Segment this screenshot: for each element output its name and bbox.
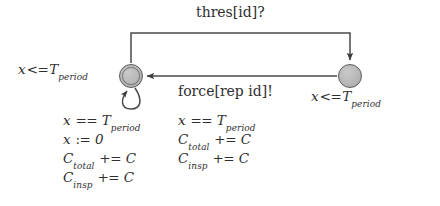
back-edge-line-1-lhs: C [178,131,188,147]
left-invariant-clock: T [49,61,58,77]
self-loop-line-1-op: := [71,131,95,147]
self-loop-line-1-lhs: x [63,131,71,147]
right-location-invariant: x<=Tperiod [311,90,381,104]
left-invariant-sub: period [58,72,88,82]
back-edge-line-1-lhs-sub: total [188,142,209,152]
back-edge-line-0: x == Tperiod [178,111,256,130]
self-loop-line-2: Ctotal += C [63,149,141,168]
self-loop-line-3-rhs: C [124,169,134,185]
back-edge-line-2-op: += [208,150,239,166]
edge-top-sync-label: thres[id]? [196,4,265,20]
edge-left-self-loop-path [122,88,139,109]
right-invariant-var: x [311,88,319,104]
left-location[interactable] [119,64,143,88]
edge-back-sync-label: force[rep id]! [178,83,273,99]
automaton-diagram: thres[id]? x<=Tperiod x<=Tperiod force[r… [0,0,440,206]
self-loop-line-2-rhs: C [126,150,136,166]
back-edge-line-0-op: == [186,112,217,128]
back-edge-line-0-lhs: x [178,112,186,128]
self-loop-line-3-op: += [93,169,124,185]
self-loop-line-3-lhs-sub: insp [73,180,92,190]
self-loop-line-2-lhs-sub: total [73,161,94,171]
self-loop-line-3-lhs: C [63,169,73,185]
self-loop-line-0-op: == [71,112,102,128]
edge-left-to-right-path [131,33,350,63]
right-invariant-clock: T [342,88,351,104]
self-loop-line-2-lhs: C [63,150,73,166]
self-loop-line-0-rhs: T [102,112,111,128]
back-edge-line-1-op: += [210,131,241,147]
back-edge-line-2-rhs: C [239,150,249,166]
back-edge-line-2-lhs: C [178,150,188,166]
self-loop-line-0: x == Tperiod [63,111,141,130]
back-edge-guard-update: x == TperiodCtotal += CCinsp += C [178,111,256,168]
back-edge-line-1-rhs: C [241,131,251,147]
left-invariant-var: x [18,61,26,77]
back-edge-line-0-rhs-sub: period [226,123,256,133]
right-invariant-sub: period [351,99,381,109]
self-loop-guard-update: x == Tperiodx := 0Ctotal += CCinsp += C [63,111,141,187]
self-loop-line-0-rhs-sub: period [111,123,141,133]
right-location[interactable] [338,64,362,88]
back-edge-line-0-rhs: T [217,112,226,128]
left-location-invariant: x<=Tperiod [18,63,88,77]
self-loop-line-2-op: += [95,150,126,166]
back-edge-line-2-lhs-sub: insp [188,161,207,171]
left-invariant-op: <= [26,61,50,77]
self-loop-line-0-lhs: x [63,112,71,128]
self-loop-line-1-rhs: 0 [95,131,104,147]
right-invariant-op: <= [319,88,343,104]
